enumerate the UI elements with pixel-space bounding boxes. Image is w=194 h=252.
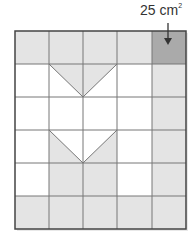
- grid-diagram: [0, 0, 194, 252]
- highlighted-cell: [152, 31, 186, 64]
- bottom-row-shaded: [15, 196, 186, 229]
